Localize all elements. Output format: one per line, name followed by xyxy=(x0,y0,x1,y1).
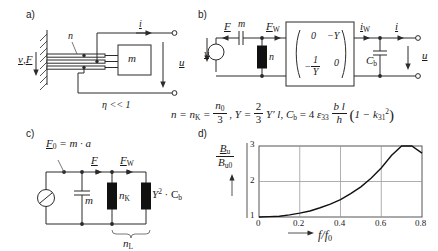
chart-xtick-3: 0.6 xyxy=(375,219,386,228)
chart-xtick-4: 0.8 xyxy=(415,219,426,228)
chart-ytick-1: 1 xyxy=(250,211,255,220)
chart-xtick-1: 0.2 xyxy=(293,219,304,228)
chart-ytick-3: 3 xyxy=(250,140,255,149)
chart-xtick-0: 0 xyxy=(256,219,261,228)
chart-graphics xyxy=(0,0,438,251)
figure-root: a) xyxy=(0,0,438,251)
chart-xtick-2: 0.4 xyxy=(334,219,345,228)
chart-x-axis-label: f/f0 xyxy=(318,229,332,243)
chart-ytick-2: 2 xyxy=(250,176,255,185)
